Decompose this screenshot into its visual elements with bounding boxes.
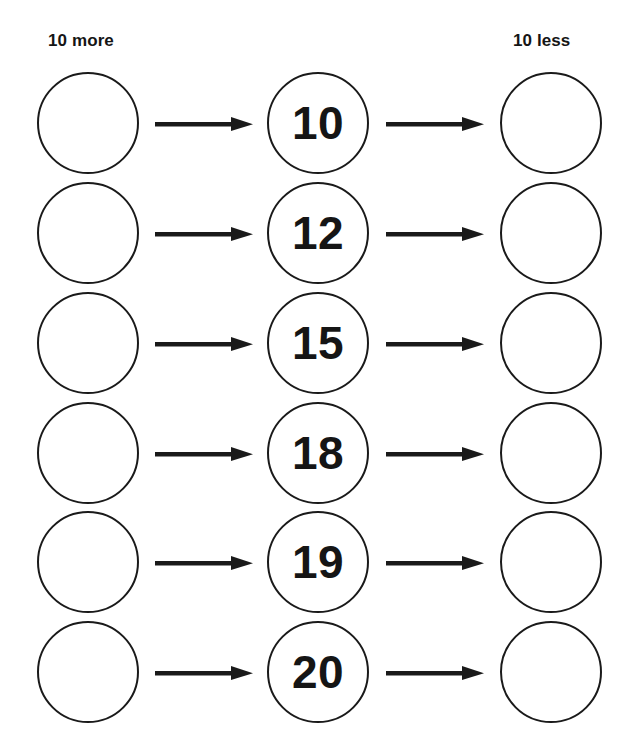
given-number-circle: 15	[267, 292, 369, 394]
answer-circle-10-more[interactable]	[37, 292, 139, 394]
answer-input-10-more[interactable]	[51, 536, 125, 588]
arrow-right-icon	[155, 665, 253, 681]
arrow-right-icon	[155, 116, 253, 132]
arrow-right-icon	[155, 226, 253, 242]
given-number: 12	[292, 210, 344, 256]
given-number-circle: 19	[267, 511, 369, 613]
given-number: 15	[292, 320, 344, 366]
answer-input-10-less[interactable]	[514, 207, 588, 259]
answer-circle-10-more[interactable]	[37, 621, 139, 723]
given-number: 19	[292, 539, 344, 585]
answer-circle-10-less[interactable]	[500, 182, 602, 284]
answer-circle-10-less[interactable]	[500, 511, 602, 613]
given-number: 10	[292, 100, 344, 146]
answer-input-10-more[interactable]	[51, 317, 125, 369]
arrow-right-icon	[386, 555, 484, 571]
problem-row: 18	[0, 402, 633, 506]
answer-input-10-more[interactable]	[51, 646, 125, 698]
answer-circle-10-less[interactable]	[500, 72, 602, 174]
given-number: 18	[292, 430, 344, 476]
given-number-circle: 12	[267, 182, 369, 284]
problem-row: 19	[0, 511, 633, 615]
column-label-10-less: 10 less	[513, 30, 570, 52]
answer-input-10-more[interactable]	[51, 97, 125, 149]
arrow-right-icon	[386, 116, 484, 132]
arrow-right-icon	[155, 336, 253, 352]
answer-circle-10-more[interactable]	[37, 72, 139, 174]
answer-input-10-less[interactable]	[514, 97, 588, 149]
arrow-right-icon	[155, 555, 253, 571]
answer-input-10-less[interactable]	[514, 427, 588, 479]
given-number-circle: 18	[267, 402, 369, 504]
arrow-right-icon	[386, 226, 484, 242]
arrow-right-icon	[386, 446, 484, 462]
arrow-right-icon	[155, 446, 253, 462]
given-number: 20	[292, 649, 344, 695]
answer-circle-10-more[interactable]	[37, 511, 139, 613]
answer-circle-10-less[interactable]	[500, 292, 602, 394]
problem-row: 20	[0, 621, 633, 725]
answer-input-10-more[interactable]	[51, 207, 125, 259]
arrow-right-icon	[386, 336, 484, 352]
answer-input-10-more[interactable]	[51, 427, 125, 479]
given-number-circle: 10	[267, 72, 369, 174]
given-number-circle: 20	[267, 621, 369, 723]
answer-circle-10-more[interactable]	[37, 402, 139, 504]
problem-row: 10	[0, 72, 633, 176]
column-label-10-more: 10 more	[48, 30, 114, 52]
arrow-right-icon	[386, 665, 484, 681]
answer-input-10-less[interactable]	[514, 317, 588, 369]
problem-row: 12	[0, 182, 633, 286]
answer-circle-10-more[interactable]	[37, 182, 139, 284]
answer-input-10-less[interactable]	[514, 536, 588, 588]
problem-row: 15	[0, 292, 633, 396]
answer-circle-10-less[interactable]	[500, 621, 602, 723]
answer-circle-10-less[interactable]	[500, 402, 602, 504]
answer-input-10-less[interactable]	[514, 646, 588, 698]
